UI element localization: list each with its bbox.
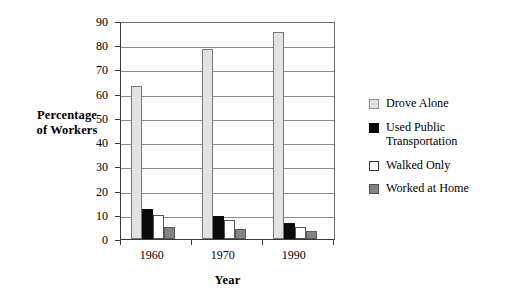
plot-area [120,22,335,240]
x-tick-label: 1970 [195,249,251,262]
y-tick-label: 30 [80,161,108,173]
y-tick-label: 10 [80,210,108,222]
legend-item: Worked at Home [369,181,469,196]
bar [273,32,284,239]
legend-swatch [369,123,379,133]
bar [142,209,153,239]
y-tick-label: 60 [80,89,108,101]
x-tick-mark [262,240,263,245]
chart-legend: Drove AloneUsed Public TransportationWal… [369,96,469,205]
bar [213,216,224,239]
legend-swatch [369,161,379,171]
gridline [121,96,334,97]
gridline [121,71,334,72]
x-tick-label: 1990 [266,249,322,262]
legend-label: Used Public Transportation [386,120,457,149]
bar [284,223,295,239]
y-tick-label: 40 [80,137,108,149]
y-tick-label: 20 [80,186,108,198]
x-tick-mark [191,240,192,245]
x-tick-mark [120,240,121,245]
bar [224,220,235,239]
legend-item: Used Public Transportation [369,120,469,149]
gridline [121,168,334,169]
gridline [121,144,334,145]
legend-label: Walked Only [386,158,450,173]
x-axis-title: Year [120,273,335,288]
y-tick-label: 50 [80,113,108,125]
gridline [121,193,334,194]
bar-chart: Percentage of Workers 010203040506070809… [0,0,514,299]
bar [202,49,213,239]
bar [235,229,246,239]
gridline [121,120,334,121]
bar [131,86,142,239]
y-tick-label: 0 [80,234,108,246]
y-tick-label: 90 [80,16,108,28]
y-tick-label: 70 [80,64,108,76]
legend-label: Worked at Home [386,181,469,196]
gridline [121,47,334,48]
y-tick-label: 80 [80,40,108,52]
x-tick-label: 1960 [124,249,180,262]
bar [306,231,317,239]
legend-item: Walked Only [369,158,469,173]
legend-label: Drove Alone [386,96,449,111]
legend-item: Drove Alone [369,96,469,111]
bar [295,227,306,239]
bar [153,215,164,239]
legend-swatch [369,184,379,194]
legend-swatch [369,99,379,109]
bar [164,227,175,239]
x-tick-mark [333,240,334,245]
